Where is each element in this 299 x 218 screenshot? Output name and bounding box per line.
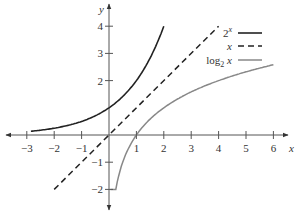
x-tick-label: 5 xyxy=(243,142,249,154)
function-plot: xy −3−2−1123456−2−1234 2xxlog2 x xyxy=(0,0,299,218)
x-axis-label: x xyxy=(288,142,294,154)
legend: 2xxlog2 x xyxy=(206,25,262,69)
y-tick-label: 4 xyxy=(98,20,104,32)
axes: xy xyxy=(6,3,294,210)
y-tick-label: −2 xyxy=(91,183,103,195)
legend-label-2-pow-x: 2x xyxy=(223,25,233,39)
y-tick-label: −1 xyxy=(91,156,103,168)
legend-label-log2-x: log2 x xyxy=(206,54,232,69)
x-tick-label: −2 xyxy=(48,142,60,154)
x-tick-label: 4 xyxy=(216,142,222,154)
x-tick-label: 3 xyxy=(188,142,194,154)
y-tick-label: 2 xyxy=(98,75,104,87)
x-tick-label: −1 xyxy=(76,142,88,154)
x-tick-label: 2 xyxy=(161,142,167,154)
y-axis-label: y xyxy=(98,3,104,15)
curves xyxy=(31,26,274,189)
x-tick-label: 1 xyxy=(134,142,140,154)
x-tick-label: −3 xyxy=(21,142,33,154)
legend-label-identity: x xyxy=(226,40,232,52)
y-tick-label: 3 xyxy=(98,47,104,59)
x-tick-label: 6 xyxy=(271,142,277,154)
curve-identity xyxy=(54,26,218,189)
